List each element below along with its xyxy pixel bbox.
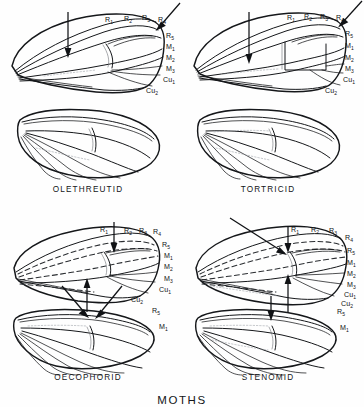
plate-svg: R1R2R3R4R5M1M2M3Cu1Cu2OLETHREUTIDR1R2R3R…	[0, 0, 364, 407]
caption-tortricid: TORTRICID	[241, 185, 296, 194]
moth-wing-venation-plate: R1R2R3R4R5M1M2M3Cu1Cu2OLETHREUTIDR1R2R3R…	[0, 0, 364, 407]
plate-background	[0, 0, 364, 407]
plate-title: MOTHS	[157, 394, 207, 406]
caption-oecophorid: OECOPHORID	[54, 373, 121, 382]
caption-stenomid: STENOMID	[242, 373, 294, 382]
caption-olethreutid: OLETHREUTID	[53, 185, 123, 194]
